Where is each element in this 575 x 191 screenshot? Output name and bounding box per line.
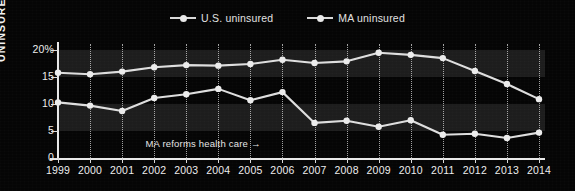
data-point [311, 60, 317, 66]
plot-area: MA reforms health care → [58, 50, 545, 158]
y-axis-label-0: 0 [8, 151, 54, 163]
series-line-u-s-uninsured [58, 53, 539, 99]
data-point [408, 52, 414, 58]
series-line-ma-uninsured [58, 89, 539, 138]
data-point [472, 131, 478, 137]
series-layer [58, 42, 545, 162]
y-axis-label-10: 10 [8, 97, 54, 109]
data-point [536, 129, 542, 135]
data-point [504, 135, 510, 141]
data-point [279, 89, 285, 95]
x-axis-label-2011: 2011 [431, 164, 454, 176]
data-point [311, 120, 317, 126]
data-point [87, 102, 93, 108]
data-point [440, 132, 446, 138]
x-axis-label-2010: 2010 [399, 164, 423, 176]
x-axis-label-2005: 2005 [238, 164, 262, 176]
data-point [87, 71, 93, 77]
data-point [151, 64, 157, 70]
y-axis-label-15: 15 [8, 70, 54, 82]
data-point [247, 97, 253, 103]
data-point [119, 108, 125, 114]
data-point [183, 62, 189, 68]
x-axis-label-2008: 2008 [335, 164, 359, 176]
x-axis-label-2007: 2007 [302, 164, 326, 176]
data-point [536, 96, 542, 102]
data-point [375, 50, 381, 56]
legend-marker-icon [307, 14, 333, 23]
data-point [183, 91, 189, 97]
y-axis-title: UNINSURED [0, 0, 7, 62]
data-point [375, 123, 381, 129]
data-point [119, 68, 125, 74]
legend-marker-icon [170, 14, 196, 23]
x-axis-label-2006: 2006 [270, 164, 294, 176]
data-point [247, 61, 253, 67]
data-point [215, 86, 221, 92]
x-axis-label-2003: 2003 [174, 164, 198, 176]
data-point [55, 69, 61, 75]
x-axis-label-2002: 2002 [142, 164, 166, 176]
x-axis-label-1999: 1999 [46, 164, 70, 176]
reform-annotation: MA reforms health care → [145, 138, 260, 149]
chart-screenshot: U.S. uninsured MA uninsured UNINSURED MA… [0, 0, 575, 191]
data-point [151, 95, 157, 101]
data-point [343, 58, 349, 64]
chart-legend: U.S. uninsured MA uninsured [0, 12, 575, 24]
x-axis-label-2014: 2014 [527, 164, 551, 176]
y-axis-label-20: 20% [8, 43, 54, 55]
data-point [472, 68, 478, 74]
data-point [55, 99, 61, 105]
x-axis-label-2012: 2012 [463, 164, 487, 176]
legend-label: U.S. uninsured [201, 12, 273, 24]
data-point [440, 55, 446, 61]
y-axis-label-5: 5 [8, 124, 54, 136]
legend-item-ma-uninsured: MA uninsured [307, 12, 405, 24]
x-axis-label-2013: 2013 [495, 164, 519, 176]
legend-label: MA uninsured [338, 12, 405, 24]
data-point [343, 118, 349, 124]
data-point [279, 57, 285, 63]
data-point [408, 117, 414, 123]
legend-item-us-uninsured: U.S. uninsured [170, 12, 273, 24]
x-axis-label-2000: 2000 [78, 164, 102, 176]
x-axis-label-2001: 2001 [110, 164, 134, 176]
x-axis-label-2004: 2004 [206, 164, 230, 176]
data-point [504, 81, 510, 87]
data-point [215, 62, 221, 68]
x-axis-label-2009: 2009 [367, 164, 391, 176]
